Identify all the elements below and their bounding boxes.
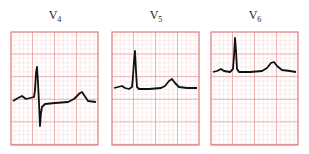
lead-label-v6: V6	[210, 8, 300, 24]
lead-v6: V6	[210, 0, 300, 154]
ecg-strip-v4	[10, 31, 99, 146]
ecg-strip-v6	[210, 31, 299, 146]
ecg-strip-v5	[111, 31, 200, 146]
lead-v5: V5	[111, 0, 201, 154]
lead-label-v4: V4	[10, 8, 100, 24]
lead-v4: V4	[10, 0, 100, 154]
lead-label-v5: V5	[111, 8, 201, 24]
